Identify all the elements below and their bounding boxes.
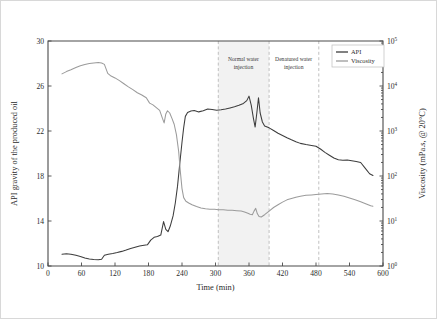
y-axis-title: API gravity of the produced oil [10,100,19,206]
text-element: 18 [36,172,44,181]
plot-annotation: Denatured waterinjection [275,56,312,70]
legend-label-viscosity: Viscosity [351,57,376,64]
text-element: 360 [243,269,255,278]
text-element: 120 [109,269,121,278]
y2-tick-label: 103 [387,126,398,136]
text-element: 180 [143,269,155,278]
chart-legend: APIViscosity [332,45,384,67]
text-element: Denatured water [275,56,312,62]
series-lines [62,63,373,260]
plot-frame [48,41,383,266]
y2-axis-title: Viscosity (mPa.s, @ 20°C) [418,108,427,199]
y2-tick-label: 100 [387,261,398,271]
tspan-element: 3 [395,126,398,132]
text-element: Normal water [228,56,259,62]
text-element: 26 [36,82,44,91]
series-line-viscosity [62,63,373,217]
chart-canvas: 0601201802403003604204805406001014182226… [1,1,437,319]
tspan-element: 0 [395,261,398,267]
text-element: 22 [36,127,44,136]
series-line-api [62,96,373,260]
shaded-bands [218,41,269,266]
text-element: 30 [36,37,44,46]
text-element: 14 [36,217,44,226]
y2-tick-label: 101 [387,216,398,226]
text-element: 10 [36,262,44,271]
x-axis-title: Time (min) [196,283,234,292]
text-element: injection [284,64,304,70]
tspan-element: 4 [395,81,398,87]
shaded-band [218,41,269,266]
y2-tick-label: 104 [387,81,398,91]
text-element: 300 [210,269,222,278]
text-element: 60 [78,269,86,278]
legend-label-api: API [351,48,361,55]
y2-tick-label: 105 [387,36,398,46]
tspan-element: 2 [395,171,398,177]
tspan-element: 1 [395,216,398,222]
text-element: injection [234,64,254,70]
text-element: 240 [176,269,188,278]
text-element: 480 [310,269,322,278]
axes [48,41,383,266]
y2-tick-label: 102 [387,171,398,181]
text-element: 540 [344,269,356,278]
text-element: 0 [46,269,50,278]
chart-figure: 0601201802403003604204805406001014182226… [0,0,437,319]
text-element: 420 [277,269,289,278]
tspan-element: 5 [395,36,398,42]
